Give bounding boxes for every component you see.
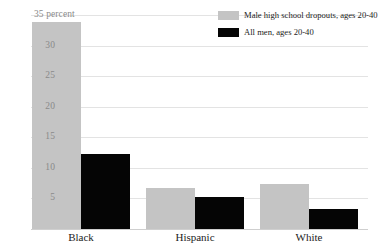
bar <box>195 197 244 229</box>
y-tick-label: 5 <box>9 192 55 202</box>
y-tick-label: 30 <box>9 40 55 50</box>
x-axis-line <box>31 229 368 230</box>
bar <box>146 188 195 229</box>
legend-swatch-dropouts-icon <box>218 11 239 20</box>
bar <box>81 154 130 229</box>
bar-chart: 5101520253035 percent BlackHispanicWhite… <box>0 0 378 251</box>
y-tick-label: 25 <box>9 70 55 80</box>
legend-label-dropouts: Male high school dropouts, ages 20-40 <box>244 10 378 21</box>
y-tick-label: 35 percent <box>34 9 154 19</box>
y-tick-label: 15 <box>9 131 55 141</box>
legend-swatch-allmen-icon <box>218 28 239 37</box>
bars-layer <box>31 15 368 229</box>
bar <box>309 209 358 229</box>
x-axis-labels: BlackHispanicWhite <box>31 231 368 251</box>
bar <box>260 184 309 229</box>
legend-label-allmen: All men, ages 20-40 <box>244 27 314 38</box>
chart-legend: Male high school dropouts, ages 20-40 Al… <box>218 9 376 43</box>
y-tick-label: 10 <box>9 162 55 172</box>
legend-item-allmen: All men, ages 20-40 <box>218 26 376 39</box>
x-axis-label: White <box>240 231 378 243</box>
plot-area: 5101520253035 percent <box>31 15 368 229</box>
legend-item-dropouts: Male high school dropouts, ages 20-40 <box>218 9 376 22</box>
y-tick-label: 20 <box>9 101 55 111</box>
